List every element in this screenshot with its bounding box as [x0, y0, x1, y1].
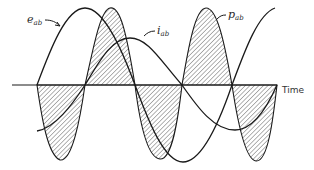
p-ab-negative-lobe-3 [232, 85, 277, 161]
i-ab-label-sub: ab [161, 30, 170, 38]
p-ab-label: pab [228, 9, 244, 22]
e-ab-label: eab [27, 14, 42, 27]
i-ab-leader [144, 31, 155, 36]
p-ab-leader [217, 15, 226, 19]
i-ab-label: iab [157, 25, 169, 38]
e-ab-label-sub: ab [34, 19, 43, 27]
p-ab-label-main: p [228, 8, 235, 21]
p-ab-negative-lobe-2 [135, 85, 182, 159]
p-ab-positive-lobe-2 [182, 8, 232, 85]
time-axis-label: Time [282, 86, 304, 95]
p-ab-label-sub: ab [235, 14, 244, 22]
